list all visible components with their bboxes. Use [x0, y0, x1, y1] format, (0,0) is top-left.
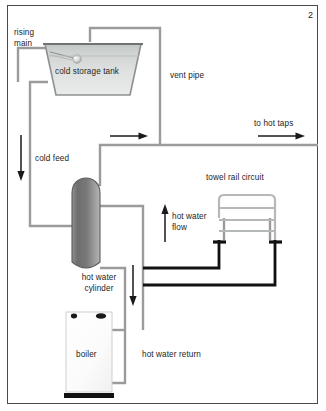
- figure-page: 2 rising main cold storage tank vent pip…: [0, 0, 326, 411]
- arrow-cold-feed: [17, 135, 24, 181]
- label-cold-feed: cold feed: [35, 154, 69, 165]
- arrow-hot-water-flow: [161, 204, 168, 242]
- pipe-towel-flow: [143, 240, 219, 268]
- label-hot-water-flow: hot water flow: [172, 212, 207, 233]
- label-rising-main: rising main: [14, 28, 34, 49]
- arrow-vent-right: [110, 133, 148, 140]
- boiler-base: [64, 393, 114, 398]
- arrow-hot-water-return: [129, 265, 136, 306]
- cylinder-body: [72, 178, 100, 268]
- label-hot-water-return: hot water return: [142, 350, 201, 361]
- arrow-to-hot-taps: [258, 133, 305, 140]
- pipe-towel-return: [143, 240, 275, 285]
- hot-water-cylinder: [72, 178, 100, 268]
- label-boiler: boiler: [76, 350, 97, 361]
- boiler-port-right: [96, 313, 106, 319]
- towel-rail: [219, 195, 275, 240]
- figure-number: 2: [308, 10, 313, 21]
- label-to-hot-taps: to hot taps: [254, 119, 293, 130]
- boiler-port-left: [71, 314, 77, 319]
- pipework-dark: [143, 240, 282, 285]
- label-vent-pipe: vent pipe: [170, 71, 204, 82]
- pipe-rising-main: [18, 48, 48, 82]
- label-hot-water-cylinder: hot water cylinder: [68, 273, 130, 294]
- label-cold-storage-tank: cold storage tank: [55, 67, 119, 78]
- towel-rail-frame: [219, 195, 275, 240]
- label-towel-rail-circuit: towel rail circuit: [206, 173, 264, 184]
